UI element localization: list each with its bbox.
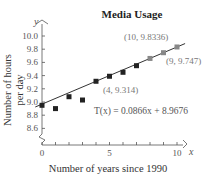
y-tick-label: 9.4	[27, 71, 39, 81]
x-tick-label: 0	[40, 148, 45, 158]
data-point	[161, 50, 166, 55]
annotation-point-9: (9, 9.747)	[166, 56, 201, 66]
media-usage-chart: Media Usage Number of hours per day 8.68…	[0, 0, 209, 178]
data-point	[40, 103, 45, 108]
x-ticks: 0510	[40, 142, 182, 158]
data-point	[94, 79, 99, 84]
data-point	[107, 74, 112, 79]
annotation-point-4: (4, 9.314)	[103, 85, 138, 95]
data-point	[80, 98, 85, 103]
y-axis-label-line2: per day	[14, 74, 25, 106]
y-axis-label-line1: Number of hours	[2, 54, 13, 126]
data-point	[175, 44, 180, 49]
x-axis-variable: x	[188, 146, 194, 157]
y-axis-label: Number of hours per day	[2, 54, 25, 126]
regression-equation: T(x) = 0.0866x + 8.9676	[94, 106, 188, 117]
annotation-point-10: (10, 9.8336)	[124, 32, 168, 42]
x-tick-label: 5	[107, 148, 112, 158]
x-axis-label: Number of years since 1990	[49, 163, 167, 174]
chart-title: Media Usage	[102, 8, 163, 20]
y-tick-label: 10.0	[22, 31, 38, 41]
y-tick-label: 9.2	[27, 84, 38, 94]
y-tick-label: 9.0	[27, 97, 39, 107]
y-tick-label: 8.6	[27, 123, 39, 133]
data-point	[134, 63, 139, 68]
x-tick-label: 10	[173, 148, 183, 158]
x-axis-arrow-icon	[183, 140, 187, 148]
y-tick-label: 9.8	[27, 44, 39, 54]
y-tick-label: 9.6	[27, 57, 39, 67]
data-point	[53, 106, 58, 111]
y-ticks: 8.68.89.09.29.49.69.810.0	[22, 31, 45, 133]
y-tick-label: 8.8	[27, 110, 39, 120]
data-point	[148, 56, 153, 61]
data-point	[121, 70, 126, 75]
y-axis-variable: y	[33, 16, 39, 27]
data-point	[67, 94, 72, 99]
